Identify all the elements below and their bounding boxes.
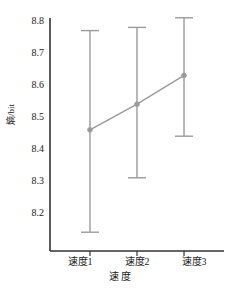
entropy-vs-speed-chart: 熵/bit 8.8 8.7 8.6 8.5 8.4 8.3 8.2 速度1 速度… [0,0,232,293]
plot-area [0,0,232,293]
x-axis-title: 速 度 [80,271,160,282]
x-tick-label-speed-3: 速度3 [164,256,224,267]
data-point-marker [182,73,187,78]
x-tick-label-speed-2: 速度2 [107,256,167,267]
x-tick-label-speed-1: 速度1 [50,256,110,267]
data-point-marker [88,127,93,132]
data-point-marker [135,102,140,107]
